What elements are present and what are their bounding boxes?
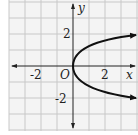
- x-axis-label: x: [126, 68, 133, 82]
- x-tick-label-neg2: -2: [30, 68, 42, 82]
- x-tick-label-2: 2: [101, 68, 109, 82]
- y-tick-label-2: 2: [63, 27, 71, 41]
- coordinate-plane: y x O -2 2 2 -2: [0, 0, 138, 135]
- y-tick-label-neg2: -2: [55, 92, 67, 106]
- origin-label: O: [60, 68, 70, 82]
- y-axis-label: y: [77, 1, 85, 15]
